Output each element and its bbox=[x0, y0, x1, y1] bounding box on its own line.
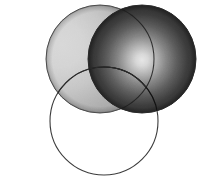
three-circles-diagram: Three overlapping circles diagram bbox=[0, 0, 206, 188]
grain-texture-overlay bbox=[0, 0, 206, 188]
figure-canvas: Three overlapping circles diagram bbox=[0, 0, 206, 188]
